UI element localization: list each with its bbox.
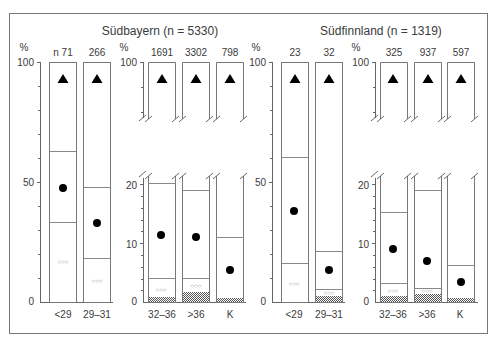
chart: Südbayern (n = 5330) Südfinnland (n = 13…	[0, 0, 501, 346]
bar-break-icon	[179, 116, 213, 179]
bar-suedbayern-29-31: ○○○	[84, 63, 111, 303]
bar-suedfinnland-lt29: ○○○	[282, 63, 309, 303]
circle-marker	[325, 266, 333, 274]
circle-marker	[457, 278, 465, 286]
bar-suedfinnland-gt36: ○○○	[411, 63, 445, 303]
category-label: 32–36	[379, 309, 407, 320]
circle-marker	[290, 207, 298, 215]
circle-marker	[423, 257, 431, 265]
y-unit-label: %	[120, 42, 129, 53]
open-circles-marker: ○○○	[388, 288, 399, 294]
y-tick-label-20: 20	[126, 180, 138, 191]
bar-suedbayern-gt36: ○○○	[179, 63, 213, 303]
triangle-marker	[388, 74, 399, 83]
category-label: 32–36	[148, 309, 176, 320]
category-label: >36	[188, 309, 205, 320]
circle-marker	[93, 219, 101, 227]
n-label: 597	[453, 47, 470, 58]
circle-marker	[157, 231, 165, 239]
triangle-marker	[456, 74, 467, 83]
y-tick-label-10: 10	[358, 239, 370, 250]
bar-suedbayern-k	[213, 63, 247, 303]
y-tick-label-10: 10	[126, 239, 138, 250]
triangle-marker	[225, 74, 236, 83]
category-label: >36	[419, 309, 436, 320]
open-circles-marker: ○○○	[324, 290, 335, 296]
panel-suedfinnland-full: % 100 50 0 ○○○ ○○○	[249, 42, 345, 320]
bar-suedbayern-lt29: ○○○	[50, 63, 77, 303]
bar-break-icon	[444, 116, 478, 179]
open-circles-marker: ○○○	[58, 259, 69, 265]
bar-break-icon	[377, 116, 411, 179]
bar-suedfinnland-32-36: ○○○	[377, 63, 411, 303]
y-tick-label-20: 20	[358, 180, 370, 191]
axis-break-icon	[371, 115, 378, 177]
y-ticks	[140, 185, 143, 291]
triangle-marker	[423, 74, 434, 83]
category-label: <29	[55, 309, 72, 320]
y-tick-label-100: 100	[249, 57, 266, 68]
circle-marker	[389, 245, 397, 253]
y-tick-label-0: 0	[28, 296, 34, 307]
bar-break-icon	[411, 116, 445, 179]
y-tick-label-50: 50	[255, 177, 267, 188]
bar-suedbayern-32-36: ○○○	[145, 63, 179, 303]
y-unit-label: %	[352, 42, 361, 53]
group-title-suedfinnland: Südfinnland (n = 1319)	[320, 24, 442, 38]
n-label: 32	[323, 47, 335, 58]
n-label: 937	[420, 47, 437, 58]
bar-suedfinnland-k	[444, 63, 478, 303]
triangle-marker	[157, 74, 168, 83]
panel-suedbayern-zoomed: % 100 20 10 0	[120, 42, 247, 320]
category-label: <29	[286, 309, 303, 320]
n-label: 325	[386, 47, 403, 58]
n-label: 1691	[151, 47, 174, 58]
circle-marker	[192, 233, 200, 241]
panel-suedbayern-full: % 100 50 0 ○○○ ○○○	[17, 42, 113, 320]
y-unit-label: %	[20, 42, 29, 53]
open-circles-marker: ○○○	[422, 288, 433, 294]
n-label: 3302	[185, 47, 208, 58]
axis-break-icon	[139, 115, 146, 177]
category-label: 29–31	[83, 309, 111, 320]
open-circles-marker: ○○○	[92, 278, 103, 284]
y-tick-label-0: 0	[260, 296, 266, 307]
bar-suedfinnland-29-31: ○○○	[316, 63, 343, 303]
circle-marker	[226, 266, 234, 274]
open-circles-marker: ○○○	[289, 281, 300, 287]
bar-break-icon	[213, 116, 247, 179]
open-circles-marker: ○○○	[191, 283, 202, 289]
y-ticks	[37, 63, 40, 279]
n-label: n 71	[53, 47, 73, 58]
panel-suedfinnland-zoomed: % 100 20 10 0	[352, 42, 478, 320]
bar-break-icon	[145, 116, 179, 179]
n-label: 266	[89, 47, 106, 58]
open-circles-marker: ○○○	[156, 287, 167, 293]
y-tick-label-100: 100	[120, 57, 137, 68]
n-label: 23	[289, 47, 301, 58]
triangle-marker	[191, 74, 202, 83]
y-tick-label-0: 0	[131, 296, 137, 307]
category-label: 29–31	[315, 309, 343, 320]
category-label: K	[457, 309, 464, 320]
y-tick-label-50: 50	[23, 177, 35, 188]
n-label: 798	[222, 47, 239, 58]
group-title-suedbayern: Südbayern (n = 5330)	[102, 24, 218, 38]
y-unit-label: %	[252, 42, 261, 53]
y-ticks	[372, 185, 375, 291]
y-tick-label-100: 100	[17, 57, 34, 68]
y-ticks	[269, 63, 272, 279]
y-tick-label-100: 100	[352, 57, 369, 68]
circle-marker	[59, 184, 67, 192]
category-label: K	[227, 309, 234, 320]
y-tick-label-0: 0	[363, 296, 369, 307]
